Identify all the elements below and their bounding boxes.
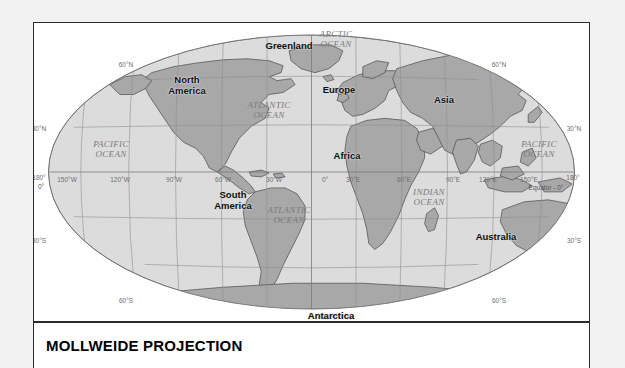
meridian-label-180-0: 180° — [33, 174, 46, 181]
continent-label-north-america: NorthAmerica — [168, 75, 206, 96]
continent-label-line: Greenland — [266, 41, 313, 52]
ocean-label-line: PACIFIC — [521, 139, 556, 149]
ocean-label-atlantic-ocean-south: ATLANTICOCEAN — [267, 205, 310, 225]
continent-label-line: Australia — [476, 232, 517, 243]
continent-label-line: Africa — [334, 151, 361, 162]
ocean-label-line: OCEAN — [267, 215, 310, 225]
continent-label-line: America — [168, 85, 206, 96]
map-title-panel: MOLLWEIDE PROJECTION — [33, 322, 590, 368]
ocean-label-line: ARCTIC — [320, 29, 353, 39]
continent-label-africa: Africa — [334, 151, 361, 162]
meridian-label-30-e-7: 30°E — [346, 176, 360, 183]
parallel-label-60-s-left: 60°S — [119, 297, 133, 304]
world-map-svg — [34, 23, 589, 321]
parallel-label-30-s-right: 30°S — [567, 237, 581, 244]
continent-label-line: Europe — [323, 85, 356, 96]
ocean-label-arctic-ocean: ARCTICOCEAN — [320, 29, 353, 49]
meridian-label-120-e-10: 120°E — [479, 176, 497, 183]
land-kamchatka — [522, 71, 538, 89]
ocean-label-line: OCEAN — [413, 197, 445, 207]
continent-label-line: America — [214, 200, 252, 211]
ocean-label-indian-ocean: INDIANOCEAN — [413, 187, 445, 207]
continent-label-south-america: SouthAmerica — [214, 190, 252, 211]
continent-label-australia: Australia — [476, 232, 517, 243]
ocean-label-line: ATLANTIC — [247, 100, 290, 110]
ocean-label-line: OCEAN — [521, 149, 556, 159]
parallel-label-30-n-right: 30°N — [567, 125, 582, 132]
meridian-label-0-6: 0° — [322, 176, 328, 183]
parallel-label-60-s-right: 60°S — [492, 297, 506, 304]
meridian-label-150-w-1: 150°W — [57, 176, 77, 183]
parallel-label-60-n-right: 60°N — [492, 61, 507, 68]
meridian-label-30-w-5: 30°W — [266, 176, 282, 183]
ocean-label-line: OCEAN — [247, 110, 290, 120]
ocean-label-line: PACIFIC — [93, 139, 128, 149]
parallel-label-60-n-left: 60°N — [119, 61, 134, 68]
page-root: NorthAmericaSouthAmericaEuropeAfricaAsia… — [0, 0, 625, 368]
continent-label-asia: Asia — [434, 95, 454, 106]
parallel-label-30-n-left: 30°N — [33, 125, 46, 132]
ocean-label-pacific-ocean-west: PACIFICOCEAN — [93, 139, 128, 159]
continent-label-line: Asia — [434, 95, 454, 106]
meridian-label-60-e-8: 60°E — [397, 176, 411, 183]
ocean-label-line: ATLANTIC — [267, 205, 310, 215]
meridian-label-180-12: 180° — [566, 174, 579, 181]
meridian-label-90-w-3: 90°W — [166, 176, 182, 183]
continent-label-greenland: Greenland — [266, 41, 313, 52]
continent-label-line: Antarctica — [308, 311, 354, 322]
ocean-label-pacific-ocean-east: PACIFICOCEAN — [521, 139, 556, 159]
ocean-label-atlantic-ocean-north: ATLANTICOCEAN — [247, 100, 290, 120]
equator-label: Equator - 0° — [529, 184, 564, 191]
ocean-label-line: OCEAN — [320, 39, 353, 49]
parallel-label-30-s-left: 30°S — [33, 237, 46, 244]
continent-label-line: North — [168, 75, 206, 86]
ocean-label-line: OCEAN — [93, 149, 128, 159]
continent-label-line: South — [214, 190, 252, 201]
meridian-label-120-w-2: 120°W — [110, 176, 130, 183]
meridian-label-60-w-4: 60°W — [215, 176, 231, 183]
continent-label-europe: Europe — [323, 85, 356, 96]
page-title: MOLLWEIDE PROJECTION — [46, 337, 243, 354]
ocean-label-line: INDIAN — [413, 187, 445, 197]
meridian-label-90-e-9: 90°E — [446, 176, 460, 183]
map-panel: NorthAmericaSouthAmericaEuropeAfricaAsia… — [33, 22, 590, 322]
meridian-label-150-e-11: 150°E — [520, 176, 538, 183]
continent-label-antarctica: Antarctica — [308, 311, 354, 322]
prime-meridian-zero-label: 0° — [38, 183, 44, 190]
